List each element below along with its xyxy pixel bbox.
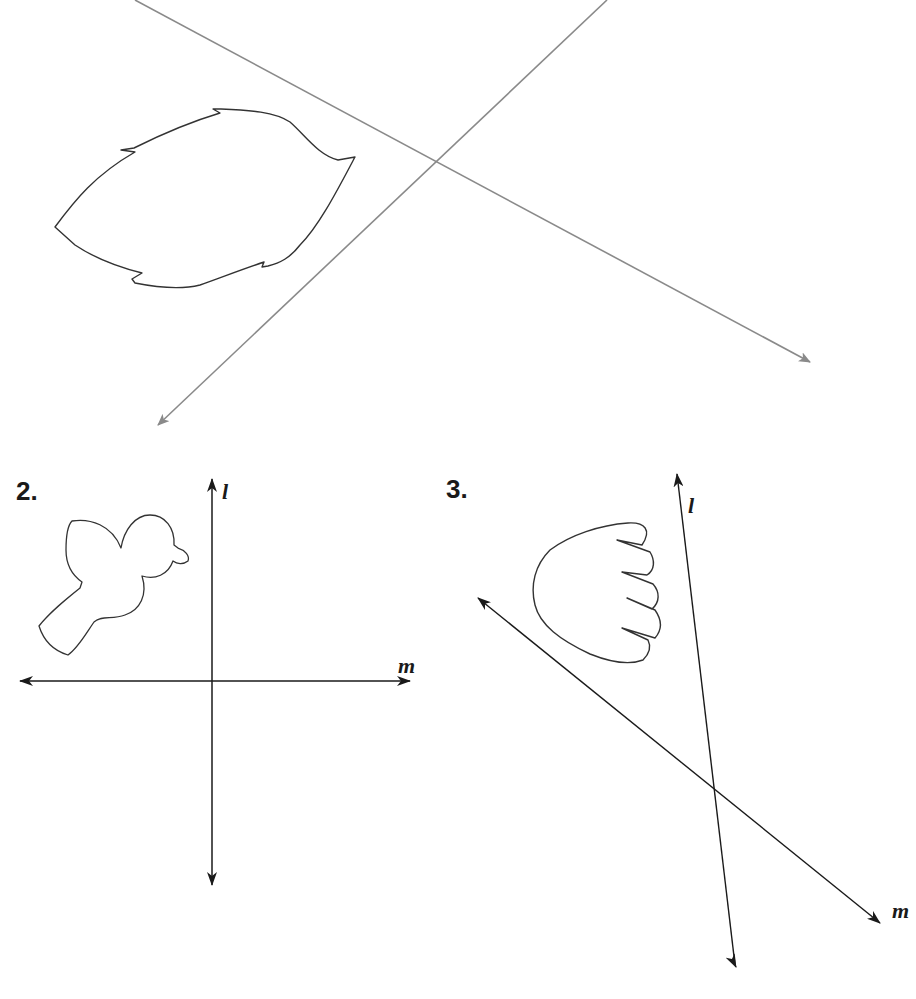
problem-2-diagram <box>20 479 410 885</box>
problem-3-line-l <box>677 474 735 965</box>
example-line-b <box>158 0 607 425</box>
problem-3-line-m-ext <box>735 965 736 967</box>
problem-3-label-l: l <box>688 495 694 517</box>
example-diagram <box>55 0 810 425</box>
problem-3-number: 3. <box>446 476 468 502</box>
problem-3-diagram <box>478 474 880 967</box>
problem-2-label-m: m <box>398 655 415 677</box>
leaf-shape <box>55 109 355 288</box>
wing-shape <box>533 523 660 663</box>
problem-2-label-l: l <box>222 481 228 503</box>
example-line-a <box>135 0 810 362</box>
problem-3-label-m: m <box>892 900 909 922</box>
problem-2-number: 2. <box>16 478 38 504</box>
problem-3-line-m <box>478 598 880 923</box>
bird-shape <box>39 515 188 655</box>
